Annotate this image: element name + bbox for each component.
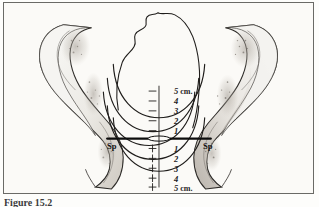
figure-page: 5 cm. 4 3 2 1 1 2 3 4 5 cm. Sp Sp Figure… [0,0,319,207]
left-innominate-bone [40,25,124,189]
pelvis-illustration [4,3,313,193]
station-tick--1: 1 [174,127,178,136]
left-ischial-spine-label: Sp [107,142,116,151]
station-tick--5: 5 cm. [174,87,192,96]
station-tick-+2: 2 [174,155,178,164]
station-tick--2: 2 [174,117,178,126]
fetal-head-outline [117,13,200,128]
figure-caption: Figure 15.2 [4,197,304,207]
station-tick-+5: 5 cm. [174,184,192,193]
station-tick-+3: 3 [174,165,178,174]
figure-caption-text: Figure 15.2 [4,197,304,207]
station-tick--4: 4 [174,97,178,106]
figure-frame: 5 cm. 4 3 2 1 1 2 3 4 5 cm. Sp Sp [3,2,314,194]
pelvis-svg [4,3,313,193]
right-innominate-bone [194,25,278,189]
right-ischial-spine-label: Sp [203,142,212,151]
station-tick-+1: 1 [174,145,178,154]
station-tick--3: 3 [174,107,178,116]
